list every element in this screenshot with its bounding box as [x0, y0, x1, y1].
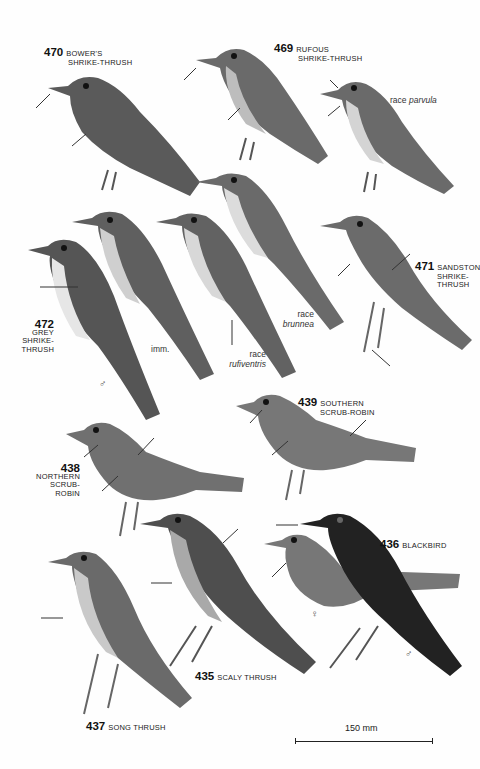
- scale-bar: [295, 738, 433, 744]
- field-guide-plate: 470BOWER'S SHRIKE-THRUSH 469RUFOUS SHRIK…: [0, 0, 480, 769]
- species-name: SCRUB-ROBIN: [298, 409, 375, 418]
- race-name: rufiventris: [196, 359, 266, 369]
- species-name: RUFOUS: [296, 45, 329, 54]
- species-name: SHRIKE-THRUSH: [44, 59, 132, 68]
- species-name: THRUSH: [20, 346, 54, 355]
- scale-bar-label: 150 mm: [345, 723, 378, 733]
- race-prefix: race: [268, 309, 314, 319]
- race-rufiventris-note: race rufiventris: [196, 349, 266, 369]
- race-parvula-note: race parvula: [390, 95, 437, 105]
- species-name: SANDSTON: [437, 263, 480, 272]
- race-prefix: race: [196, 349, 266, 359]
- species-number: 437: [86, 720, 105, 732]
- species-name: SONG THRUSH: [108, 723, 165, 732]
- species-label-435: 435SCALY THRUSH: [195, 672, 277, 683]
- race-brunnea-note: race brunnea: [268, 309, 314, 329]
- species-label-438: 438 NORTHERN SCRUB- ROBIN: [28, 464, 80, 498]
- species-name: THRUSH: [415, 281, 480, 290]
- species-number: 436: [380, 538, 399, 550]
- race-prefix: race: [390, 95, 407, 105]
- race-name: brunnea: [268, 319, 314, 329]
- race-name: parvula: [409, 95, 437, 105]
- species-number: 439: [298, 396, 317, 408]
- species-name: SCALY THRUSH: [217, 673, 277, 682]
- species-name: BLACKBIRD: [402, 541, 446, 550]
- species-label-471: 471SANDSTON SHRIKE- THRUSH: [415, 262, 480, 290]
- species-label-439: 439SOUTHERN SCRUB-ROBIN: [298, 398, 375, 417]
- male-symbol: ♂: [405, 648, 413, 659]
- species-number: 469: [274, 42, 293, 54]
- immature-note: imm.: [151, 344, 169, 354]
- species-label-437: 437SONG THRUSH: [86, 722, 166, 733]
- species-name: BOWER'S: [66, 49, 102, 58]
- female-symbol: ♀: [311, 608, 319, 619]
- species-name: SHRIKE-THRUSH: [274, 55, 362, 64]
- species-label-472: 472 GREY SHRIKE- THRUSH: [20, 320, 54, 354]
- species-label-436: 436BLACKBIRD: [380, 540, 447, 551]
- species-name: ROBIN: [28, 490, 80, 499]
- species-number: 435: [195, 670, 214, 682]
- species-label-470: 470BOWER'S SHRIKE-THRUSH: [44, 48, 132, 67]
- species-number: 470: [44, 46, 63, 58]
- species-name: SOUTHERN: [320, 399, 364, 408]
- species-number: 471: [415, 260, 434, 272]
- male-symbol: ♂: [99, 378, 107, 389]
- species-label-469: 469RUFOUS SHRIKE-THRUSH: [274, 44, 362, 63]
